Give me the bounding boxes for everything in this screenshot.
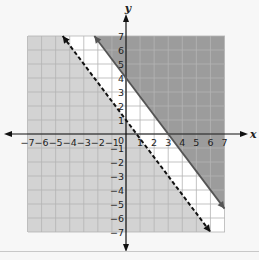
y-tick-label: −7 — [110, 227, 124, 238]
x-tick-label: 4 — [179, 137, 185, 148]
x-tick-label: −2 — [91, 137, 105, 148]
y-tick-label: −4 — [110, 185, 124, 196]
x-tick-label: 2 — [151, 137, 157, 148]
origin-label: 0 — [118, 135, 124, 146]
y-axis-label: y — [124, 2, 133, 15]
x-axis-right-arrow-icon — [240, 131, 248, 137]
x-tick-label: 5 — [193, 137, 199, 148]
x-tick-label: −6 — [35, 137, 49, 148]
y-tick-label: 6 — [118, 45, 124, 56]
chart-container: xy−7−6−5−4−3−2−112345677654321−1−2−3−4−5… — [0, 0, 259, 260]
x-axis-left-arrow-icon — [4, 131, 12, 137]
divider-line — [0, 251, 259, 252]
x-tick-label: −4 — [63, 137, 77, 148]
y-tick-label: 7 — [118, 31, 124, 42]
y-tick-label: −3 — [110, 171, 124, 182]
y-tick-label: −6 — [110, 213, 124, 224]
x-tick-label: 3 — [165, 137, 171, 148]
y-tick-label: −2 — [110, 157, 124, 168]
x-tick-label: −5 — [49, 137, 63, 148]
x-tick-label: −7 — [20, 137, 34, 148]
x-tick-label: −3 — [77, 137, 91, 148]
y-tick-label: 3 — [118, 87, 124, 98]
y-axis-up-arrow-icon — [123, 14, 129, 22]
x-axis-label: x — [249, 128, 257, 141]
x-tick-label: 6 — [207, 137, 213, 148]
coordinate-plane: xy−7−6−5−4−3−2−112345677654321−1−2−3−4−5… — [0, 0, 259, 260]
x-tick-label: 7 — [221, 137, 227, 148]
y-tick-label: −5 — [110, 199, 124, 210]
